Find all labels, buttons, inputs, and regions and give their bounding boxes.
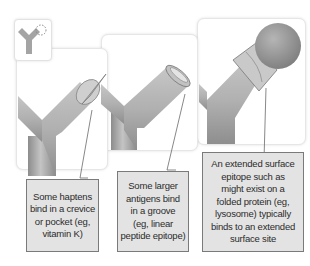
antibody-y-icon [18, 25, 46, 54]
hapten-cone-icon [18, 74, 106, 176]
callout-groove-text: Some larger antigens bind in a groove (e… [121, 180, 186, 243]
pointer-line-groove [167, 94, 185, 170]
callout-surface: An extended surface epitope such as migh… [202, 152, 304, 252]
callout-crevice: Some haptens bind in a crevice or pocket… [26, 179, 99, 252]
callout-groove: Some larger antigens bind in a groove (e… [117, 171, 189, 252]
callout-surface-text: An extended surface epitope such as migh… [211, 158, 295, 246]
groove-cylinder-icon [101, 62, 193, 150]
callout-crevice-text: Some haptens bind in a crevice or pocket… [30, 191, 95, 241]
pointer-line-crevice [80, 110, 92, 178]
pointer-line-surface [264, 88, 272, 160]
sphere-protein-icon [199, 23, 301, 144]
